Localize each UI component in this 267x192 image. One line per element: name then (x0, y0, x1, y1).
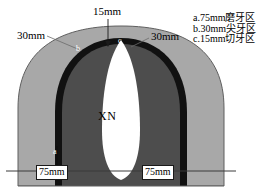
label-bottom-left-75mm: 75mm (36, 165, 68, 180)
dental-arch-zone-diagram: 15mm 30mm 30mm 75mm 75mm XN b c a a.75mm… (0, 0, 267, 192)
legend: a.75mm磨牙区 b.30mm尖牙区 c.15mm切牙区 (193, 13, 256, 45)
marker-b: b (76, 45, 80, 53)
legend-item-c: c.15mm切牙区 (193, 34, 256, 45)
marker-c: c (118, 37, 122, 45)
label-top-15mm: 15mm (93, 6, 121, 17)
label-right-30mm: 30mm (151, 31, 179, 42)
label-left-30mm: 30mm (17, 30, 45, 41)
legend-item-a: a.75mm磨牙区 (193, 13, 256, 24)
label-bottom-right-75mm: 75mm (142, 165, 174, 180)
marker-a: a (53, 148, 57, 156)
label-center-xn: XN (98, 110, 116, 122)
